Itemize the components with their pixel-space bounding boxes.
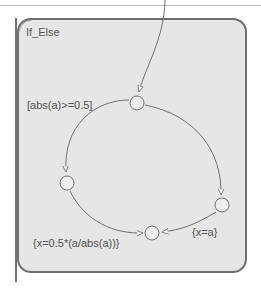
junction-bottom[interactable] bbox=[145, 226, 159, 240]
junction-right[interactable] bbox=[215, 198, 229, 212]
junction-top[interactable] bbox=[130, 96, 144, 110]
else-action-label[interactable]: {x=a} bbox=[192, 226, 217, 238]
condition-label[interactable]: [abs(a)>=0.5] bbox=[27, 99, 92, 111]
if-action-label[interactable]: {x=0.5*(a/abs(a))} bbox=[33, 237, 120, 249]
state-title: If_Else bbox=[26, 26, 60, 38]
junction-left[interactable] bbox=[60, 176, 74, 190]
